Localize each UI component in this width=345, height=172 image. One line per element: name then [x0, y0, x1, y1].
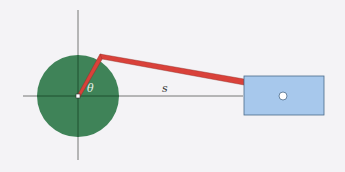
- connecting-rod: [100, 54, 244, 85]
- pivot-point: [76, 94, 80, 98]
- theta-label: θ: [87, 82, 94, 95]
- crank-slider-diagram: θ s: [0, 0, 345, 172]
- s-label: s: [162, 82, 168, 95]
- slider-pin: [279, 92, 287, 100]
